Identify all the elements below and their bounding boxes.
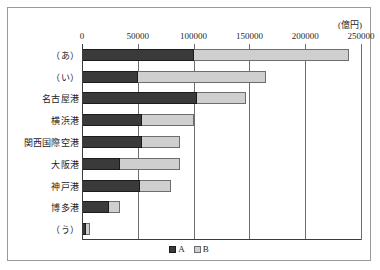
category-label: 博多港: [51, 201, 79, 214]
plot-area: （あ）（い）名古屋港横浜港関西国際空港大阪港神戸港博多港（う）: [82, 44, 361, 240]
bar-segment-b: [142, 136, 180, 148]
bar-segment-b: [142, 114, 193, 126]
stacked-bar: [82, 136, 180, 148]
bar-row: （う）: [82, 218, 361, 240]
bar-segment-b: [197, 92, 246, 104]
category-label: 横浜港: [51, 114, 79, 127]
bar-row: 横浜港: [82, 109, 361, 131]
chart-legend: AB: [8, 244, 370, 254]
stacked-bar: [82, 223, 90, 235]
category-label: （う）: [51, 223, 79, 236]
x-tick-label: 50000: [127, 31, 150, 41]
bar-row: 名古屋港: [82, 88, 361, 110]
category-label: 神戸港: [51, 179, 79, 192]
x-tick-label: 200000: [292, 31, 319, 41]
legend-label: A: [178, 244, 185, 254]
bar-row: 大阪港: [82, 153, 361, 175]
bar-row: 博多港: [82, 196, 361, 218]
legend-swatch-icon: [169, 246, 176, 253]
stacked-bar: [82, 158, 180, 170]
bar-segment-b: [120, 158, 180, 170]
stacked-bar: [82, 114, 194, 126]
x-tick-label: 250000: [348, 31, 375, 41]
x-tick-label: 0: [80, 31, 85, 41]
stacked-bar: [82, 92, 246, 104]
bar-segment-a: [82, 201, 109, 213]
bar-segment-b: [138, 71, 266, 83]
stacked-bar: [82, 180, 171, 192]
bar-segment-a: [82, 158, 120, 170]
bar-segment-b: [194, 49, 349, 61]
x-axis-tick-labels: 050000100000150000200000250000: [8, 31, 380, 43]
bar-segment-a: [82, 92, 197, 104]
bar-segment-b: [86, 223, 90, 235]
bar-row: （あ）: [82, 44, 361, 66]
gridline: [361, 44, 362, 240]
bar-segment-b: [140, 180, 171, 192]
category-label: 名古屋港: [42, 92, 79, 105]
category-label: （あ）: [51, 48, 79, 61]
x-tick-label: 150000: [236, 31, 263, 41]
legend-item-a: A: [169, 244, 185, 254]
bar-row: 神戸港: [82, 175, 361, 197]
legend-item-b: B: [194, 244, 209, 254]
bar-segment-a: [82, 180, 140, 192]
legend-swatch-icon: [194, 246, 201, 253]
bar-segment-b: [109, 201, 120, 213]
stacked-bar: [82, 71, 266, 83]
category-label: 大阪港: [51, 157, 79, 170]
bar-segment-a: [82, 136, 142, 148]
bar-segment-a: [82, 49, 194, 61]
bar-row: （い）: [82, 66, 361, 88]
unit-label: (億円): [338, 18, 362, 31]
bar-segment-a: [82, 114, 142, 126]
chart-figure: (億円) 050000100000150000200000250000 （あ）（…: [7, 7, 371, 261]
x-tick-label: 100000: [180, 31, 207, 41]
category-label: 関西国際空港: [24, 135, 79, 148]
bar-row: 関西国際空港: [82, 131, 361, 153]
bar-segment-a: [82, 71, 138, 83]
legend-label: B: [203, 244, 209, 254]
stacked-bar: [82, 201, 120, 213]
category-label: （い）: [51, 70, 79, 83]
stacked-bar: [82, 49, 349, 61]
